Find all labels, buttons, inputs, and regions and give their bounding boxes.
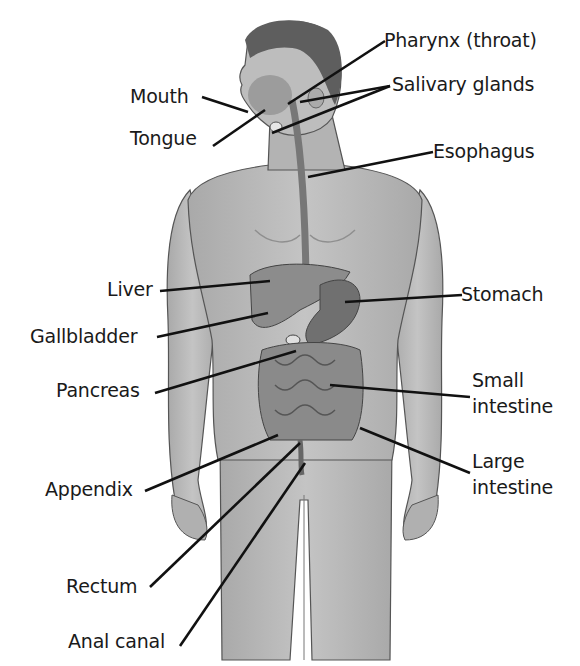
label-liver: Liver — [107, 279, 153, 301]
label-pancreas: Pancreas — [56, 380, 140, 402]
label-rectum: Rectum — [66, 576, 137, 598]
label-tongue: Tongue — [130, 128, 197, 150]
label-pharynx: Pharynx (throat) — [384, 30, 537, 52]
label-mouth: Mouth — [130, 86, 189, 108]
leader-mouth — [202, 97, 248, 112]
digestive-system-diagram: MouthTongueLiverGallbladderPancreasAppen… — [0, 0, 580, 666]
label-anal-canal: Anal canal — [68, 631, 165, 653]
label-esophagus: Esophagus — [433, 141, 534, 163]
label-large-intestine-1: Large — [472, 451, 524, 473]
leader-tongue — [213, 110, 265, 146]
label-small-intestine-1: Small — [472, 370, 524, 392]
label-salivary-glands: Salivary glands — [392, 74, 534, 96]
head-neck — [240, 20, 345, 170]
label-large-intestine-2: intestine — [472, 477, 553, 499]
label-small-intestine-2: intestine — [472, 396, 553, 418]
label-gallbladder: Gallbladder — [30, 326, 137, 348]
label-appendix: Appendix — [45, 479, 133, 501]
label-stomach: Stomach — [461, 284, 543, 306]
